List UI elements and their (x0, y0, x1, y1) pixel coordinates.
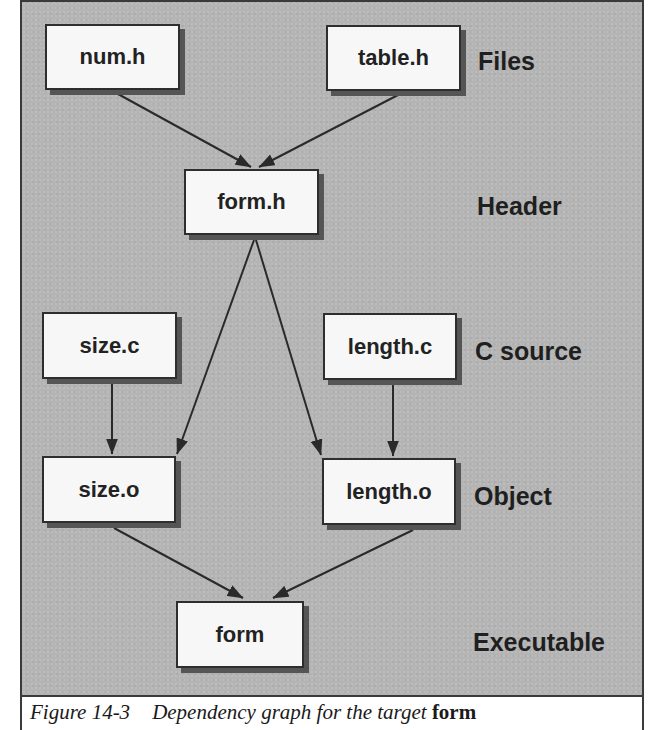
caption-target: form (432, 700, 476, 724)
level-label-c-source: C source (475, 337, 582, 366)
node-size-c: size.c (42, 312, 177, 379)
level-label-executable: Executable (473, 628, 605, 657)
node-length-c: length.c (323, 313, 457, 380)
node-num-h: num.h (45, 24, 180, 90)
node-label: length.c (348, 334, 432, 360)
level-label-files: Files (478, 47, 535, 76)
node-label: num.h (80, 44, 146, 70)
node-label: form.h (217, 189, 285, 215)
node-table-h: table.h (326, 25, 461, 91)
caption-text: Dependency graph for the target (152, 700, 432, 724)
node-form: form (176, 601, 304, 668)
node-label: size.o (78, 477, 139, 503)
node-form-h: form.h (184, 169, 319, 235)
node-label: form (216, 622, 265, 648)
level-label-object: Object (474, 482, 552, 511)
figure-number: Figure 14-3 (30, 700, 130, 724)
figure-caption: Figure 14-3Dependency graph for the targ… (30, 700, 476, 725)
node-size-o: size.o (42, 456, 176, 523)
node-label: table.h (358, 45, 429, 71)
node-length-o: length.o (322, 458, 456, 525)
level-label-header: Header (477, 192, 562, 221)
node-label: size.c (80, 333, 140, 359)
node-label: length.o (346, 479, 432, 505)
